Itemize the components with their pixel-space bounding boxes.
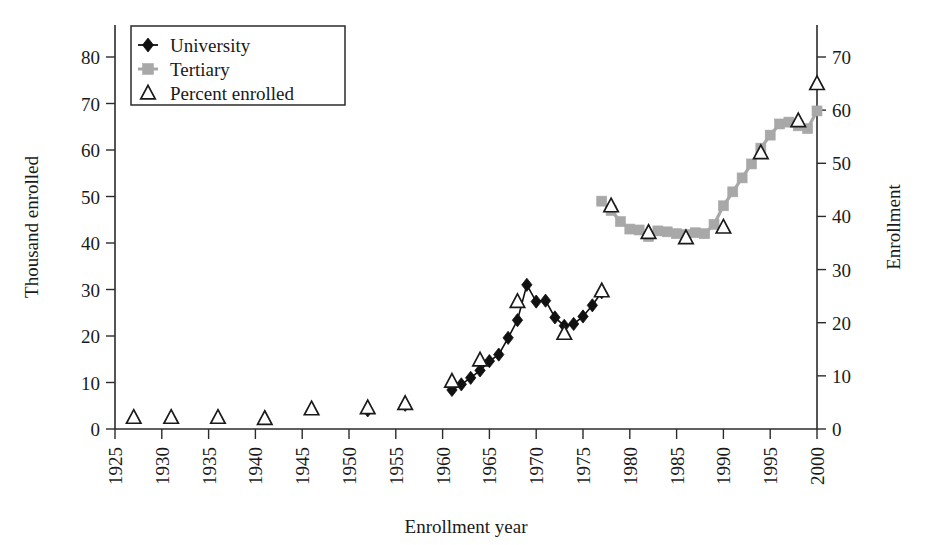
tertiary-point: [700, 229, 710, 239]
enrollment-line-chart: 01020304050607080 010203040506070 192519…: [0, 0, 935, 545]
x-tick-label: 1950: [339, 447, 360, 485]
x-axis-title: Enrollment year: [405, 516, 529, 537]
right-tick-label: 70: [832, 47, 851, 68]
left-tick-label: 80: [81, 47, 100, 68]
percent-enrolled-point: [810, 76, 824, 90]
percent-enrolled-point: [398, 396, 412, 410]
left-tick-label: 0: [91, 419, 101, 440]
percent-enrolled-point: [164, 410, 178, 424]
x-tick-label: 1930: [152, 447, 173, 485]
bottom-axis-ticks: 1925193019351940194519501955196019651970…: [105, 429, 828, 485]
university-point: [550, 311, 560, 324]
percent-enrolled-point: [361, 400, 375, 414]
x-tick-label: 1990: [713, 447, 734, 485]
legend-item-label: Percent enrolled: [170, 83, 294, 104]
x-tick-label: 1970: [526, 447, 547, 485]
university-line: [452, 285, 602, 390]
right-tick-label: 60: [832, 100, 851, 121]
x-tick-label: 1940: [245, 447, 266, 485]
right-tick-label: 50: [832, 153, 851, 174]
university-point: [568, 317, 578, 330]
percent-enrolled-point: [595, 283, 609, 297]
series-percent-enrolled: [127, 76, 825, 424]
tertiary-point: [662, 227, 672, 237]
chart-container: 01020304050607080 010203040506070 192519…: [0, 0, 935, 545]
right-axis-title: Enrollment: [883, 184, 904, 270]
x-tick-label: 2000: [807, 447, 828, 485]
legend-marker-square-icon: [143, 64, 154, 75]
university-point: [512, 314, 522, 327]
university-point: [466, 371, 476, 384]
legend-item-label: Tertiary: [170, 59, 230, 80]
tertiary-point: [765, 130, 775, 140]
x-tick-label: 1980: [620, 447, 641, 485]
university-point: [531, 295, 541, 308]
x-tick-label: 1995: [760, 447, 781, 485]
x-tick-label: 1955: [386, 447, 407, 485]
series-tertiary: [597, 106, 822, 242]
percent-enrolled-point: [445, 374, 459, 388]
left-tick-label: 40: [81, 233, 100, 254]
tertiary-line: [602, 111, 817, 237]
tertiary-point: [690, 228, 700, 238]
tertiary-point: [728, 187, 738, 197]
percent-enrolled-point: [473, 352, 487, 366]
x-tick-label: 1965: [479, 447, 500, 485]
x-tick-label: 1945: [292, 447, 313, 485]
university-point: [494, 348, 504, 361]
tertiary-point: [737, 173, 747, 183]
x-tick-label: 1960: [433, 447, 454, 485]
percent-enrolled-point: [211, 410, 225, 424]
tertiary-point: [709, 219, 719, 229]
left-tick-label: 30: [81, 280, 100, 301]
right-tick-label: 20: [832, 313, 851, 334]
university-point: [522, 278, 532, 291]
tertiary-point: [672, 229, 682, 239]
percent-enrolled-point: [258, 411, 272, 425]
left-tick-label: 10: [81, 373, 100, 394]
right-tick-label: 0: [832, 419, 842, 440]
left-axis-title: Thousand enrolled: [21, 156, 42, 298]
tertiary-point: [615, 217, 625, 227]
x-tick-label: 1975: [573, 447, 594, 485]
tertiary-point: [812, 106, 822, 116]
tertiary-point: [746, 159, 756, 169]
x-tick-label: 1935: [199, 447, 220, 485]
tertiary-point: [625, 224, 635, 234]
tertiary-point: [718, 201, 728, 211]
series-university: [363, 278, 607, 417]
university-point: [540, 294, 550, 307]
data-series-layer: [127, 76, 825, 424]
right-tick-label: 40: [832, 206, 851, 227]
x-tick-label: 1925: [105, 447, 126, 485]
percent-enrolled-point: [304, 401, 318, 415]
chart-legend[interactable]: UniversityTertiaryPercent enrolled: [131, 26, 345, 105]
left-tick-label: 20: [81, 326, 100, 347]
right-tick-label: 30: [832, 260, 851, 281]
percent-enrolled-point: [127, 410, 141, 424]
left-tick-label: 50: [81, 187, 100, 208]
tertiary-point: [775, 119, 785, 129]
tertiary-point: [634, 225, 644, 235]
x-tick-label: 1985: [667, 447, 688, 485]
percent-enrolled-point: [557, 326, 571, 340]
left-tick-label: 70: [81, 94, 100, 115]
left-tick-label: 60: [81, 140, 100, 161]
right-tick-label: 10: [832, 366, 851, 387]
left-axis-ticks: 01020304050607080: [81, 47, 115, 440]
tertiary-point: [597, 196, 607, 206]
university-point: [503, 331, 513, 344]
legend-item-label: University: [170, 35, 251, 56]
